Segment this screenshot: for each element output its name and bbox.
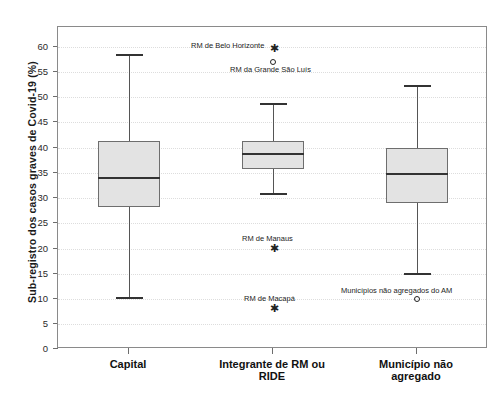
whisker-upper-capital [129,55,130,141]
box-nao-agregado [386,148,448,203]
annotation-municipios-am: Municípios não agregados do AM [341,286,452,295]
x-tick-label-nao-agregado-line2: agregado [391,370,441,382]
plot-area: ✱ ✱ ✱ RM de Belo Horizonte RM da Grande … [57,26,487,348]
gridline-45 [58,122,486,123]
y-tick-label-40: 40 [0,143,48,153]
y-tick-label-45: 45 [0,117,48,127]
y-tick-label-20: 20 [0,244,48,254]
x-tick-mark-rm-ride [272,348,273,354]
outlier-circle-municipios-am [414,296,420,302]
gridline-50 [58,97,486,98]
whisker-upper-nao-agregado [417,86,418,148]
y-tick-label-10: 10 [0,294,48,304]
y-tick-mark-0 [53,348,58,349]
whisker-upper-rm-ride [273,104,274,141]
x-tick-label-rm-ride-line2: RIDE [259,370,285,382]
whisker-lower-nao-agregado [417,203,418,274]
y-tick-label-30: 30 [0,193,48,203]
boxplot-figure: Sub-registro dos casos graves de Covid-1… [0,0,504,407]
whisker-cap-upper-nao-agregado [404,85,431,87]
x-tick-label-capital: Capital [68,358,188,370]
median-rm-ride [242,153,304,155]
annotation-belo-horizonte: RM de Belo Horizonte [191,41,264,50]
whisker-lower-capital [129,207,130,298]
y-tick-label-0: 0 [0,344,48,354]
y-tick-label-35: 35 [0,168,48,178]
annotation-grande-sao-luis: RM da Grande São Luís [230,65,311,74]
x-tick-mark-capital [128,348,129,354]
x-tick-label-rm-ride-line1: Integrante de RM ou [219,358,325,370]
y-tick-label-50: 50 [0,92,48,102]
x-tick-label-nao-agregado-line1: Município não [379,358,453,370]
median-nao-agregado [386,173,448,175]
x-tick-mark-nao-agregado [416,348,417,354]
x-tick-label-rm-ride: Integrante de RM ou RIDE [197,358,347,382]
outlier-star-macapa: ✱ [270,304,279,312]
whisker-cap-upper-rm-ride [260,103,287,105]
box-rm-ride [242,141,304,169]
whisker-cap-upper-capital [116,54,143,56]
median-capital [98,177,160,179]
whisker-lower-rm-ride [273,169,274,194]
whisker-cap-lower-rm-ride [260,193,287,195]
annotation-manaus: RM de Manaus [242,234,293,243]
whisker-cap-lower-capital [116,297,143,299]
y-tick-label-25: 25 [0,218,48,228]
y-tick-label-55: 55 [0,67,48,77]
y-tick-label-15: 15 [0,269,48,279]
gridline-25 [58,223,486,224]
whisker-cap-lower-nao-agregado [404,273,431,275]
outlier-star-manaus: ✱ [270,244,279,252]
outlier-star-belo-horizonte: ✱ [270,44,279,52]
x-tick-label-nao-agregado: Município não agregado [346,358,486,382]
box-capital [98,141,160,207]
y-tick-label-60: 60 [0,42,48,52]
annotation-macapa: RM de Macapá [244,294,295,303]
gridline-5 [58,324,486,325]
y-tick-label-5: 5 [0,319,48,329]
